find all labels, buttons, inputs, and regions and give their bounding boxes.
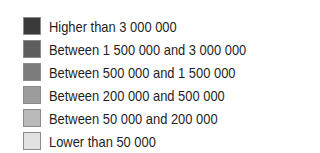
legend-swatch: [23, 86, 41, 104]
legend-swatch: [23, 17, 41, 35]
legend-item: Between 50 000 and 200 000: [23, 108, 245, 128]
legend-item: Lower than 50 000: [23, 131, 173, 151]
legend-swatch: [23, 109, 41, 127]
legend-label: Lower than 50 000: [49, 133, 156, 150]
legend-label: Between 500 000 and 1 500 000: [49, 64, 235, 81]
legend-item: Higher than 3 000 000: [23, 16, 197, 36]
legend-swatch: [23, 40, 41, 58]
legend-item: Between 500 000 and 1 500 000: [23, 62, 266, 82]
legend-swatch: [23, 132, 41, 150]
legend-label: Between 200 000 and 500 000: [49, 87, 225, 104]
legend-swatch: [23, 63, 41, 81]
legend-label: Between 1 500 000 and 3 000 000: [49, 41, 246, 58]
legend-label: Higher than 3 000 000: [49, 18, 177, 35]
legend-item: Between 200 000 and 500 000: [23, 85, 253, 105]
legend-label: Between 50 000 and 200 000: [49, 110, 218, 127]
legend-item: Between 1 500 000 and 3 000 000: [23, 39, 278, 59]
